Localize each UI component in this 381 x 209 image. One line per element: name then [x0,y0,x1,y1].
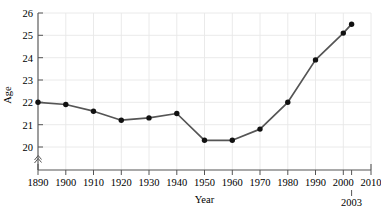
y-tick-label-26: 26 [23,8,34,19]
y-tick-label-20: 20 [23,142,34,153]
data-point-2000 [341,30,346,35]
data-point-1960 [230,138,235,143]
x-tick-label-1980: 1980 [277,177,298,188]
x-tick-label-1920: 1920 [111,177,132,188]
x-tick-label-1950: 1950 [194,177,215,188]
x-tick-label-1900: 1900 [55,177,76,188]
x-tick-label-1940: 1940 [166,177,187,188]
x-tick-label-1910: 1910 [83,177,104,188]
data-point-1920 [119,118,124,123]
age-vs-year-line-chart: 26 25 24 23 22 21 20 Age 1890 1900 1910 … [0,0,381,209]
x-tick-label-1970: 1970 [250,177,271,188]
x-tick-label-1960: 1960 [222,177,243,188]
x-tick-label-1990: 1990 [305,177,326,188]
annotation-2003-label: 2003 [341,197,362,208]
x-tick-label-1890: 1890 [28,177,49,188]
y-tick-labels: 26 25 24 23 22 21 20 [23,8,34,153]
data-point-1910 [91,109,96,114]
data-point-2003 [349,22,354,27]
y-tick-label-21: 21 [23,120,34,131]
y-tick-label-24: 24 [23,53,34,64]
y-axis-title: Age [2,86,13,104]
data-point-1900 [63,102,68,107]
x-axis-title: Year [195,194,215,205]
x-tick-label-2000: 2000 [333,177,354,188]
x-tick-label-2010: 2010 [361,177,381,188]
data-point-1890 [35,100,40,105]
data-point-1980 [285,100,290,105]
annotation-2003: 2003 [341,190,362,208]
x-tick-marks [38,170,371,175]
x-tick-labels: 1890 1900 1910 1920 1930 1940 1950 1960 … [28,177,381,188]
x-tick-label-1930: 1930 [139,177,160,188]
y-tick-label-23: 23 [23,75,34,86]
data-point-1970 [257,126,262,131]
data-point-1990 [313,57,318,62]
y-tick-label-25: 25 [23,30,34,41]
data-point-1950 [202,138,207,143]
data-point-1940 [174,111,179,116]
y-tick-label-22: 22 [23,97,34,108]
data-point-1930 [146,115,151,120]
